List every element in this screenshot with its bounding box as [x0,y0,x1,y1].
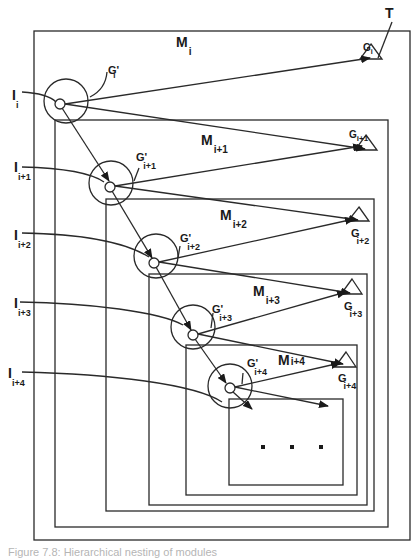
input-label-i3: Ii+3 [14,295,31,318]
input-curve-i2 [22,233,149,257]
goal-label-i4: Gi+4 [338,372,356,391]
gprime-label-i: G'i [108,64,120,80]
gprime-tick-i1 [134,168,139,181]
goal-label-i3: Gi+3 [344,300,362,319]
gprime-circle-i4 [208,364,252,408]
figure-caption: Figure 7.8: Hierarchical nesting of modu… [8,546,418,558]
input-curve-i [22,92,56,102]
module-box-i2 [106,199,374,511]
module-label-i: Mi [176,34,192,57]
gprime-label-i2: G'i+2 [180,232,200,252]
arrow-to-goal-i1 [65,104,365,149]
t-pointer-line [378,22,392,58]
label-t: T [385,5,394,21]
input-label-i4: Ii+4 [8,365,25,388]
gprime-label-i4: G'i+4 [247,357,267,377]
node-circle-i [55,99,65,109]
module-box-inner [229,399,343,485]
ellipsis-dots [261,445,323,449]
module-label-i3: Mi+3 [253,283,280,306]
node-circle-i4 [225,383,235,393]
node-circle-i1 [105,182,115,192]
input-label-i: Ii [12,87,18,110]
input-label-i1: Ii+1 [14,159,31,182]
input-curve-i3 [20,302,183,325]
module-label-i1: Mi+1 [201,132,228,155]
arrow-i1-to-goal-i2 [115,186,358,220]
goal-triangle-i4 [335,352,356,367]
chain-arrow-i-i1 [62,108,109,181]
gprime-circle-i3 [171,305,215,349]
gprime-tick-i2 [178,246,180,258]
module-label-i2: Mi+2 [220,207,247,230]
chain-arrow-i4-inner [233,392,252,409]
module-box-i1 [55,120,388,527]
arrow-i3-to-goal-i4 [198,334,343,364]
goal-label-i2: Gi+2 [351,227,369,246]
input-curve-i4 [22,372,222,402]
node-circle-i2 [149,258,159,268]
input-label-i2: Ii+2 [14,227,31,250]
gprime-circle-i2 [134,234,178,278]
module-box-i4 [186,345,357,495]
module-label-i4: Mi+4 [278,352,305,368]
chain-arrow-i1-i2 [112,191,152,258]
gprime-tick-i4 [242,373,243,384]
goal-label-i1: Gi+1 [349,129,369,143]
gprime-tick-i [90,72,107,97]
gprime-label-i3: G'i+3 [212,303,232,323]
node-circle-i3 [188,330,198,340]
